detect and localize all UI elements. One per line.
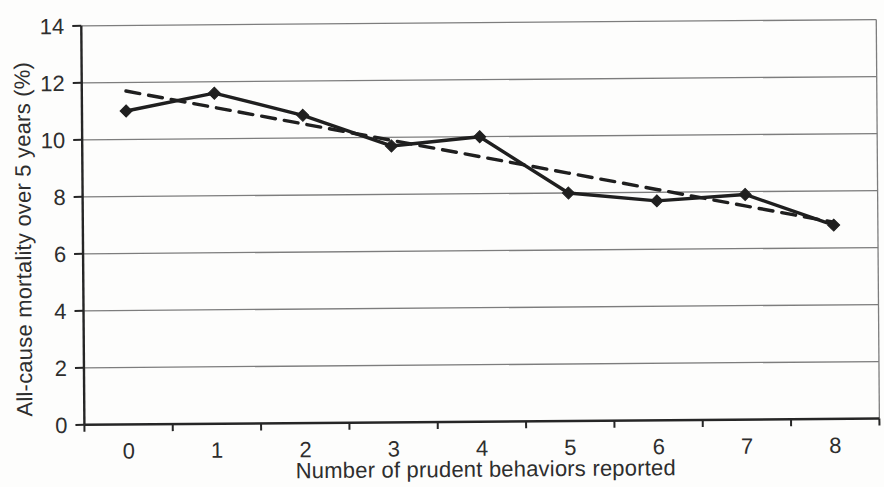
mortality-line-chart: 02468101214012345678 All-cause mortality… [0, 0, 884, 487]
data-point-marker [651, 195, 663, 207]
x-tick-label: 8 [829, 433, 841, 458]
gridline [84, 362, 879, 368]
gridline [83, 248, 878, 254]
y-tick-label: 12 [40, 71, 65, 96]
chart-plot-area: 02468101214012345678 [0, 0, 884, 487]
data-point-marker [120, 105, 132, 117]
y-tick-label: 14 [40, 14, 65, 39]
x-tick-label: 0 [123, 438, 135, 463]
plot-right-border [876, 20, 879, 419]
x-tick-label: 1 [211, 438, 223, 463]
gridline [81, 20, 876, 26]
y-tick-label: 6 [54, 242, 66, 267]
gridline [83, 191, 878, 197]
y-tick-label: 0 [55, 413, 67, 438]
gridline [82, 77, 877, 83]
x-axis-line [84, 419, 879, 425]
data-point-marker [208, 87, 220, 99]
data-point-marker [739, 188, 751, 200]
trend-line [126, 85, 834, 227]
data-point-marker [297, 109, 309, 121]
data-point-marker [385, 140, 397, 152]
data-series-line [126, 88, 834, 230]
y-axis-title: All-cause mortality over 5 years (%) [10, 62, 39, 417]
y-axis-line [81, 26, 84, 425]
gridline [84, 305, 879, 311]
x-tick-label: 7 [741, 434, 753, 459]
y-tick-label: 2 [55, 356, 67, 381]
y-tick-label: 4 [54, 299, 66, 324]
y-tick-label: 8 [53, 185, 65, 210]
y-tick-label: 10 [41, 128, 66, 153]
scanned-figure-page: 02468101214012345678 All-cause mortality… [0, 0, 884, 487]
x-axis-title: Number of prudent behaviors reported [296, 455, 676, 484]
